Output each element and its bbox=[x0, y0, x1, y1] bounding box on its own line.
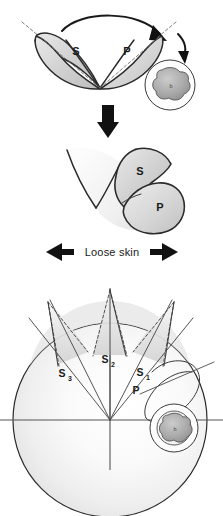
transition-down-arrow bbox=[97, 105, 119, 138]
segment-label-s3-sub: 3 bbox=[68, 375, 72, 382]
figure-root: S P b bbox=[0, 0, 223, 516]
segment-label-s1-base: S bbox=[136, 366, 143, 378]
pedicle-label-p: P bbox=[132, 384, 139, 396]
segment-label-s1-sub: 1 bbox=[146, 374, 150, 381]
figure-canvas: S P b bbox=[0, 0, 223, 516]
flap-label-p-top: P bbox=[123, 45, 130, 57]
loose-skin-label: Loose skin bbox=[85, 246, 140, 258]
loose-skin-caption: Loose skin bbox=[46, 243, 178, 261]
flap-label-s-mid: S bbox=[136, 165, 143, 177]
small-curved-arrow bbox=[178, 34, 189, 64]
flap-label-p-mid: P bbox=[156, 201, 163, 213]
left-block-arrow bbox=[46, 243, 74, 261]
segment-label-s2-base: S bbox=[101, 353, 108, 365]
segment-label-s3-base: S bbox=[58, 367, 65, 379]
panel-radial-segments: P S 3 S 2 S 1 b bbox=[0, 288, 223, 516]
right-block-arrow bbox=[150, 243, 178, 261]
segment-label-s2-sub: 2 bbox=[111, 361, 115, 368]
panel-post-rotation: S P bbox=[67, 148, 184, 234]
nipple-mark-bottom: b bbox=[173, 426, 176, 432]
flap-label-s-top: S bbox=[72, 45, 79, 57]
nipple-mark-top: b bbox=[169, 83, 172, 89]
nipple-inset-top: b bbox=[145, 60, 195, 110]
nipple-inset-bottom: b bbox=[150, 404, 198, 452]
panel-pre-rotation: S P b bbox=[22, 16, 195, 110]
rotation-arc-arrow bbox=[62, 16, 167, 41]
